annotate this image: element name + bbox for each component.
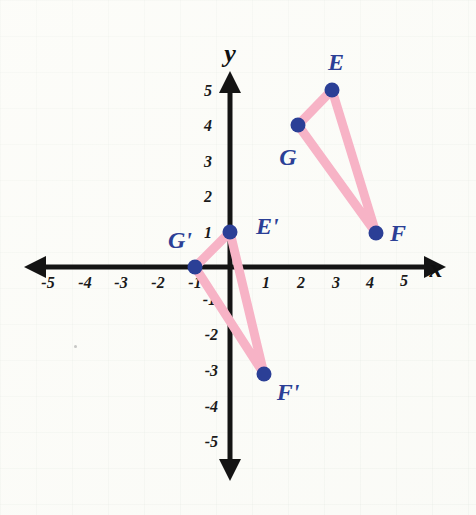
y-tick-label-4: 4 — [203, 117, 212, 134]
x-tick-label--3: -3 — [114, 274, 127, 291]
x-tick-label-5: 5 — [400, 272, 408, 289]
y-tick-label--5: -5 — [205, 433, 218, 450]
point-label-E: E — [327, 49, 344, 75]
x-tick-label-1: 1 — [262, 274, 270, 291]
point-label-G-prime: G' — [168, 227, 192, 253]
y-axis-label: y — [221, 39, 236, 68]
point-label-E-prime: E' — [255, 213, 279, 239]
point-E[interactable] — [325, 83, 340, 98]
point-label-F: F — [389, 220, 406, 246]
x-axis-label: x — [429, 254, 443, 283]
x-tick-label-2: 2 — [296, 274, 305, 291]
graph-paper-background: -5 -4 -3 -2 -1 1 2 3 4 5 5 4 3 2 1 -1 -2… — [0, 0, 476, 515]
coordinate-plane: -5 -4 -3 -2 -1 1 2 3 4 5 5 4 3 2 1 -1 -2… — [0, 0, 476, 515]
x-tick-label-4: 4 — [365, 274, 374, 291]
point-F-prime[interactable] — [257, 367, 272, 382]
x-tick-label--4: -4 — [78, 274, 91, 291]
point-label-F-prime: F' — [276, 379, 300, 405]
point-G[interactable] — [291, 118, 306, 133]
x-tick-label--5: -5 — [41, 274, 54, 291]
x-tick-label-3: 3 — [331, 274, 340, 291]
y-tick-label-5: 5 — [204, 82, 212, 99]
point-label-G: G — [279, 144, 297, 170]
y-axis-arrow-up — [219, 71, 241, 93]
point-F[interactable] — [369, 226, 384, 241]
triangle-EGF-outline — [298, 90, 376, 233]
y-axis-arrow-down — [219, 459, 241, 481]
x-tick-label--2: -2 — [151, 274, 164, 291]
y-tick-label--3: -3 — [205, 362, 218, 379]
y-tick-label-1: 1 — [204, 224, 212, 241]
point-G-prime[interactable] — [188, 260, 203, 275]
y-tick-label-2: 2 — [203, 188, 212, 205]
triangle-EGF — [298, 90, 376, 233]
y-tick-label--4: -4 — [205, 398, 218, 415]
point-E-prime[interactable] — [223, 225, 238, 240]
y-tick-label-3: 3 — [203, 153, 212, 170]
y-tick-label--2: -2 — [205, 326, 218, 343]
